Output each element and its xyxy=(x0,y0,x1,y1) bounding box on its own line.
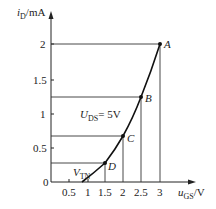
uds-annotation: UDS= 5V xyxy=(80,108,121,123)
x-tick-label: 1 xyxy=(85,186,91,198)
y-axis-title: iD/mA xyxy=(17,6,45,21)
x-tick-label: 1.5 xyxy=(98,186,112,198)
y-tick-label: 0.5 xyxy=(33,142,47,154)
x-tick-label: 2.5 xyxy=(134,186,148,198)
point-label-b: B xyxy=(145,92,152,104)
origin-label: 0 xyxy=(43,176,49,188)
vtn-annotation: VTN xyxy=(73,166,91,181)
data-points xyxy=(103,42,162,165)
y-tick-label: 2 xyxy=(40,38,46,50)
x-tick-label: 3 xyxy=(157,186,163,198)
point-label-d: D xyxy=(107,160,116,172)
point-label-a: A xyxy=(163,38,171,50)
x-axis-arrow xyxy=(188,180,196,185)
y-axis-arrow xyxy=(49,11,54,19)
point-label-c: C xyxy=(127,132,135,144)
transfer-curve xyxy=(82,44,160,182)
x-axis-title: uGS/V xyxy=(178,186,205,201)
x-tick-label: 2 xyxy=(120,186,126,198)
x-tick-label: 0.5 xyxy=(62,186,76,198)
chart: A B C D 2 1.5 1 0.5 0 0.5 1 1.5 2 2.5 3 … xyxy=(0,0,216,209)
y-tick-label: 1 xyxy=(40,108,46,120)
y-tick-label: 1.5 xyxy=(33,74,47,86)
